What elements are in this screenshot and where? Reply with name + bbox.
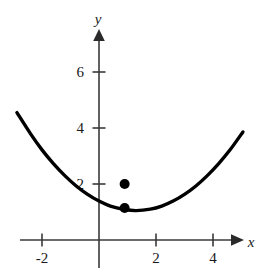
y-axis-label: y [93, 11, 102, 27]
y-axis-arrow-icon [93, 29, 105, 41]
x-tick-label: 2 [152, 250, 160, 266]
vertex-region-point [120, 203, 130, 213]
parabola-curve [17, 113, 243, 211]
data-point-group [120, 179, 130, 213]
y-tick-label: 6 [77, 64, 85, 80]
chart-canvas: -2 2 4 2 4 6 x y [0, 0, 264, 278]
x-axis-arrow-icon [231, 234, 244, 246]
x-tick-label: 4 [209, 250, 217, 266]
x-tick-label: -2 [36, 250, 49, 266]
x-axis-label: x [247, 234, 255, 250]
upper-point [120, 179, 130, 189]
y-tick-label: 4 [77, 120, 85, 136]
parabola-figure: -2 2 4 2 4 6 x y [0, 0, 264, 278]
